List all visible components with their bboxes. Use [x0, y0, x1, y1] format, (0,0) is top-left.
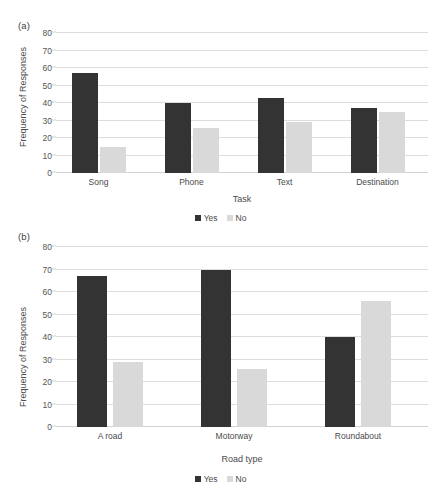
y-axis-title-b: Frequency of Responses: [18, 292, 28, 422]
y-tick-label: 50: [43, 81, 52, 91]
bar-text-yes: [258, 98, 284, 173]
x-tick-label: Song: [89, 177, 109, 187]
chart-panel-a: (a) Frequency of Responses 0102030405060…: [0, 0, 441, 230]
y-tick-label: 30: [43, 355, 52, 365]
x-tick-label: Motorway: [216, 431, 253, 441]
plot-area-a: [56, 33, 428, 173]
x-tick-label: Roundabout: [335, 431, 381, 441]
y-tick-label: 60: [43, 63, 52, 73]
legend-swatch-no-icon: [227, 215, 233, 221]
bar-a-road-yes: [77, 276, 107, 427]
y-axis-ticks-b: 01020304050607080: [28, 247, 52, 427]
y-tick-label: 50: [43, 310, 52, 320]
bars-layer-a: [56, 33, 428, 173]
y-tick-label: 70: [43, 265, 52, 275]
x-axis-title-b: Road type: [56, 454, 428, 464]
x-tick-label: Text: [277, 177, 293, 187]
legend-item-yes: Yes: [195, 214, 218, 223]
legend-label: Yes: [204, 214, 218, 223]
y-tick-label: 60: [43, 287, 52, 297]
bars-layer-b: [56, 247, 428, 427]
bar-motorway-yes: [201, 270, 231, 428]
bar-phone-yes: [165, 103, 191, 173]
bar-song-yes: [72, 73, 98, 173]
plot-area-b: [56, 247, 428, 427]
y-tick-label: 70: [43, 46, 52, 56]
y-tick-label: 0: [47, 422, 52, 432]
legend-label: No: [236, 475, 247, 484]
panel-label-a: (a): [18, 20, 30, 31]
bar-destination-yes: [351, 108, 377, 173]
y-tick-label: 80: [43, 28, 52, 38]
y-tick-label: 10: [43, 400, 52, 410]
x-axis-title-a: Task: [56, 194, 428, 204]
y-tick-label: 30: [43, 116, 52, 126]
legend-item-no: No: [227, 214, 247, 223]
legend-item-no: No: [227, 475, 247, 484]
bar-a-road-no: [113, 362, 143, 427]
bar-motorway-no: [237, 369, 267, 428]
x-tick-label: Destination: [356, 177, 399, 187]
bar-song-no: [100, 147, 126, 173]
x-tick-label: Phone: [179, 177, 204, 187]
y-tick-label: 40: [43, 332, 52, 342]
bar-roundabout-no: [361, 301, 391, 427]
x-tick-label: A road: [98, 431, 123, 441]
y-tick-label: 0: [47, 168, 52, 178]
y-tick-label: 20: [43, 377, 52, 387]
legend-swatch-yes-icon: [195, 476, 201, 482]
figure-bar-charts: (a) Frequency of Responses 0102030405060…: [0, 0, 441, 502]
legend-b: YesNo: [0, 475, 441, 484]
bar-roundabout-yes: [325, 337, 355, 427]
legend-item-yes: Yes: [195, 475, 218, 484]
bar-text-no: [286, 122, 312, 173]
y-tick-label: 20: [43, 133, 52, 143]
chart-panel-b: (b) Frequency of Responses 0102030405060…: [0, 230, 441, 502]
y-tick-label: 80: [43, 242, 52, 252]
legend-swatch-yes-icon: [195, 215, 201, 221]
bar-phone-no: [193, 128, 219, 174]
y-tick-label: 40: [43, 98, 52, 108]
y-axis-ticks-a: 01020304050607080: [28, 33, 52, 173]
panel-label-b: (b): [18, 231, 30, 242]
legend-label: Yes: [204, 475, 218, 484]
bar-destination-no: [379, 112, 405, 173]
y-axis-title-a: Frequency of Responses: [18, 32, 28, 162]
legend-swatch-no-icon: [227, 476, 233, 482]
y-tick-label: 10: [43, 151, 52, 161]
legend-label: No: [236, 214, 247, 223]
legend-a: YesNo: [0, 214, 441, 223]
